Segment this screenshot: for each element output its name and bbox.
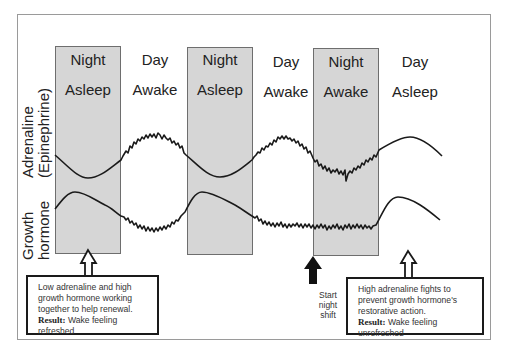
note-result-text: Wake feeling xyxy=(66,315,118,325)
start-night-shift-arrow-icon xyxy=(304,256,322,284)
growth-hormone-curve xyxy=(55,192,440,232)
note-result-text: refreshed xyxy=(38,326,151,337)
note-text: growth hormone working xyxy=(38,293,151,304)
note-result-text: Wake feeling xyxy=(386,317,438,327)
note-text: together to help renewal. xyxy=(38,304,151,315)
note-text: prevent growth hormone's xyxy=(358,295,476,306)
left-callout-arrow-icon xyxy=(81,250,96,276)
adrenaline-curve xyxy=(55,133,442,181)
right-callout-arrow-icon xyxy=(401,251,416,278)
left-callout-note: Low adrenaline and high growth hormone w… xyxy=(26,275,159,335)
start-label-line1: Start xyxy=(308,290,348,300)
start-label-line2: night xyxy=(308,300,348,310)
note-result-text: unrefreshed xyxy=(358,328,476,339)
note-text: Low adrenaline and high xyxy=(38,282,151,293)
note-result-label: Result: xyxy=(38,315,66,325)
note-result-label: Result: xyxy=(358,317,386,327)
right-callout-note: High adrenaline fights to prevent growth… xyxy=(346,277,484,335)
start-label-line3: shift xyxy=(308,310,348,320)
note-text: restorative action. xyxy=(358,306,476,317)
note-text: High adrenaline fights to xyxy=(358,284,476,295)
start-night-shift-label: Start night shift xyxy=(308,290,348,320)
